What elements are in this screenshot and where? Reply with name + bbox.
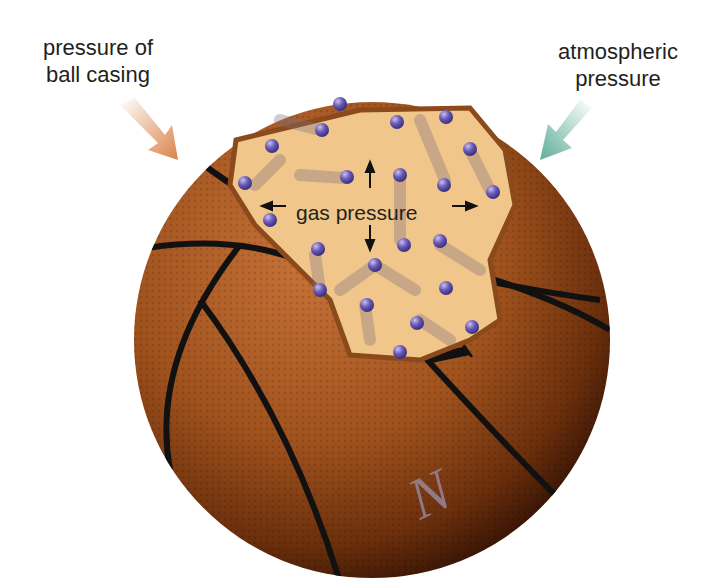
- atmospheric-pressure-label: atmospheric pressure: [548, 38, 688, 92]
- atmospheric-label-line1: atmospheric: [548, 38, 688, 65]
- gas-pressure-label: gas pressure: [296, 199, 417, 226]
- casing-label-line2: ball casing: [28, 61, 168, 88]
- casing-pressure-arrow: [120, 98, 178, 160]
- casing-pressure-label: pressure of ball casing: [28, 34, 168, 88]
- atmospheric-label-line2: pressure: [548, 65, 688, 92]
- atmospheric-pressure-arrow: [540, 100, 592, 160]
- casing-label-line1: pressure of: [28, 34, 168, 61]
